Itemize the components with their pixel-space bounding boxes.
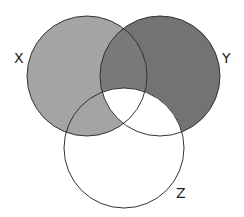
venn-diagram: X Y Z — [0, 0, 244, 217]
label-y: Y — [221, 50, 231, 66]
label-z: Z — [176, 185, 186, 201]
label-x: X — [14, 50, 24, 66]
